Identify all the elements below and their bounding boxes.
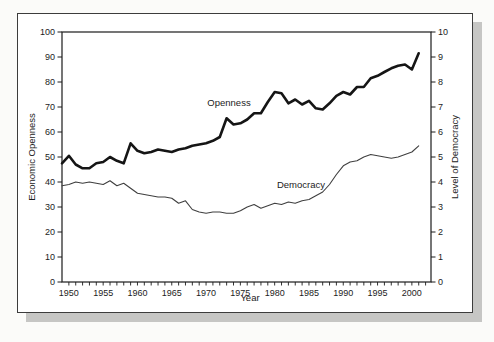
x-axis-tick-label: 1965: [162, 288, 182, 298]
left-axis-title: Economic Openness: [26, 113, 37, 201]
x-axis-tick-label: 2000: [402, 288, 422, 298]
right-axis-tick-label: 0: [438, 277, 443, 287]
left-axis-tick-label: 80: [45, 77, 55, 87]
x-axis-tick-label: 1950: [59, 288, 79, 298]
left-axis-tick-label: 70: [45, 102, 55, 112]
democracy-line: [62, 146, 419, 214]
x-axis-tick-label: 1980: [265, 288, 285, 298]
left-axis-tick-label: 100: [40, 27, 55, 37]
right-axis-tick-label: 2: [438, 227, 443, 237]
right-axis-tick-label: 4: [438, 177, 443, 187]
left-axis-ticks: [58, 32, 63, 282]
left-axis-tick-label: 50: [45, 152, 55, 162]
right-axis-tick-label: 8: [438, 77, 443, 87]
right-axis-tick-labels: 012345678910: [438, 27, 448, 287]
right-axis-tick-label: 5: [438, 152, 443, 162]
left-axis-tick-labels: 0102030405060708090100: [40, 27, 55, 287]
left-axis-tick-label: 0: [50, 277, 55, 287]
left-axis-tick-label: 40: [45, 177, 55, 187]
left-axis-tick-label: 10: [45, 252, 55, 262]
left-axis-tick-label: 60: [45, 127, 55, 137]
left-axis-tick-label: 30: [45, 202, 55, 212]
right-axis-tick-label: 10: [438, 27, 448, 37]
x-axis-tick-label: 1985: [299, 288, 319, 298]
left-axis-tick-label: 20: [45, 227, 55, 237]
democracy-series-label: Democracy: [277, 179, 325, 190]
chart-panel: 0102030405060708090100 012345678910 1950…: [17, 13, 473, 313]
x-axis-title: Year: [240, 292, 259, 303]
right-axis-tick-label: 6: [438, 127, 443, 137]
left-axis-tick-label: 90: [45, 52, 55, 62]
right-axis-title: Level of Democracy: [449, 115, 460, 199]
right-axis-tick-label: 3: [438, 202, 443, 212]
right-axis-ticks: [431, 32, 436, 282]
x-axis-tick-label: 1970: [196, 288, 216, 298]
openness-series-label: Openness: [207, 97, 251, 108]
x-axis-tick-label: 1990: [333, 288, 353, 298]
right-axis-tick-label: 1: [438, 252, 443, 262]
chart-canvas: 0102030405060708090100 012345678910 1950…: [18, 14, 472, 312]
x-axis-tick-label: 1955: [93, 288, 113, 298]
page-background: { "figure": { "background": "#fbfbf9", "…: [0, 0, 494, 342]
right-axis-tick-label: 7: [438, 102, 443, 112]
x-axis-tick-label: 1995: [368, 288, 388, 298]
openness-line: [62, 53, 419, 168]
right-axis-tick-label: 9: [438, 52, 443, 62]
plot-border: [62, 32, 431, 282]
x-axis-tick-label: 1960: [127, 288, 147, 298]
